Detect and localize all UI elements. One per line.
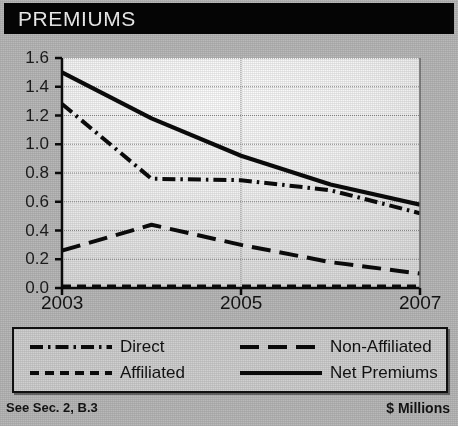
legend-line-swatch: [238, 361, 324, 385]
units-label: $ Millions: [386, 400, 450, 416]
plot-svg: [62, 58, 420, 288]
y-axis-tick-label: 1.0: [0, 135, 49, 152]
chart-body: 0.00.20.40.60.81.01.21.41.6 200320052007: [0, 36, 458, 308]
title-banner: PREMIUMS: [4, 3, 454, 34]
legend-line-swatch: [28, 361, 114, 385]
x-axis-tick-label: 2007: [399, 292, 441, 314]
legend-label: Direct: [120, 337, 164, 357]
footnote-reference: See Sec. 2, B.3: [6, 400, 98, 415]
legend-line-swatch: [28, 335, 114, 359]
page-title: PREMIUMS: [18, 7, 136, 31]
y-axis-tick-label: 1.4: [0, 78, 49, 95]
legend: DirectNon-AffiliatedAffiliatedNet Premiu…: [12, 327, 448, 393]
legend-label: Affiliated: [120, 363, 185, 383]
legend-label: Non-Affiliated: [330, 337, 432, 357]
y-axis-tick-label: 0.2: [0, 250, 49, 267]
y-axis-tick-label: 0.6: [0, 193, 49, 210]
chart-figure: PREMIUMS 0.00.20.40.60.81.01.21.41.6 200…: [0, 0, 458, 426]
x-axis-tick-label: 2005: [220, 292, 262, 314]
y-axis-tick-label: 0.8: [0, 164, 49, 181]
y-axis-tick-label: 1.6: [0, 49, 49, 66]
plot-area: [62, 58, 420, 288]
y-axis-tick-label: 0.4: [0, 222, 49, 239]
y-axis-tick-label: 1.2: [0, 107, 49, 124]
legend-line-swatch: [238, 335, 324, 359]
legend-label: Net Premiums: [330, 363, 438, 383]
x-axis-tick-label: 2003: [41, 292, 83, 314]
